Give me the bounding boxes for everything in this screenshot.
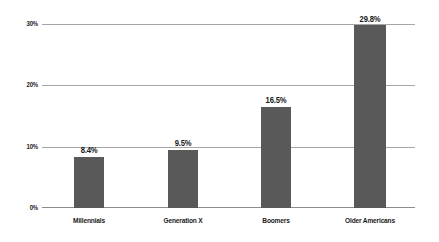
bar-generation-x[interactable] [168, 150, 198, 208]
bar-slot-older-americans: 29.8% [354, 24, 386, 208]
y-tick-label: 0% [9, 204, 38, 212]
bar-value-label: 16.5% [266, 96, 287, 105]
bar-value-label: 8.4% [81, 146, 98, 155]
bar-slot-boomers: 16.5% [261, 24, 291, 208]
bar-older-americans[interactable] [354, 25, 386, 208]
x-axis: Millennials Generation X Boomers Older A… [42, 216, 415, 236]
bar-value-label: 29.8% [360, 15, 381, 24]
x-tick-label-boomers: Boomers [241, 216, 311, 225]
bar-chart: 30% 20% 10% 0% 8.4% 9.5% 16.5% 29.8% Mil… [0, 0, 439, 242]
x-tick-label-millennials: Millennials [54, 216, 124, 225]
y-tick-label: 30% [9, 20, 38, 28]
y-axis: 30% 20% 10% 0% [0, 24, 38, 208]
bar-millennials[interactable] [74, 157, 104, 209]
plot-area: 8.4% 9.5% 16.5% 29.8% [42, 24, 415, 208]
y-tick-label: 20% [9, 81, 38, 89]
y-tick-label: 10% [9, 143, 38, 151]
bar-value-label: 9.5% [175, 139, 192, 148]
x-tick-label-older-americans: Older Americans [335, 216, 405, 225]
bar-slot-generation-x: 9.5% [168, 24, 198, 208]
bar-slot-millennials: 8.4% [74, 24, 104, 208]
x-tick-label-generation-x: Generation X [148, 216, 218, 225]
bar-boomers[interactable] [261, 107, 291, 208]
